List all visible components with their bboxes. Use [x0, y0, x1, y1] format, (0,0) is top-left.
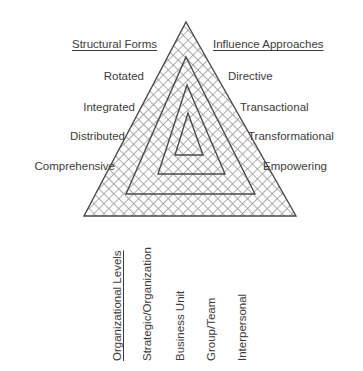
left-label-integrated: Integrated	[83, 101, 135, 114]
right-label-transformational: Transformational	[248, 130, 334, 143]
right-label-transactional: Transactional	[240, 101, 309, 114]
axis-label-strategic-organization: Strategic/Organization	[141, 247, 153, 361]
left-column-heading: Structural Forms	[72, 38, 157, 51]
left-label-distributed: Distributed	[70, 130, 125, 143]
diagram-figure: Structural Forms Rotated Integrated Dist…	[0, 0, 363, 371]
axis-label-interpersonal: Interpersonal	[236, 294, 248, 361]
right-label-empowering: Empowering	[263, 160, 327, 173]
right-column-heading: Influence Approaches	[213, 38, 324, 51]
left-label-comprehensive: Comprehensive	[34, 160, 115, 173]
axis-heading-organizational-levels: Organizational Levels	[111, 250, 123, 361]
left-label-rotated: Rotated	[104, 70, 144, 83]
axis-label-business-unit: Business Unit	[174, 291, 186, 361]
axis-label-group-team: Group/Team	[205, 298, 217, 361]
right-label-directive: Directive	[228, 70, 273, 83]
